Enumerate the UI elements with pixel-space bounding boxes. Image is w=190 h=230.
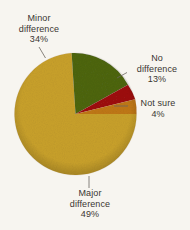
pie-label-no-difference-value: 13% <box>128 74 186 85</box>
pie-label-no-difference-line2: difference <box>128 64 186 75</box>
pie-rim-shading <box>15 53 137 175</box>
pie-label-minor: Minor difference 34% <box>6 13 72 45</box>
pie-label-not-sure-value: 4% <box>130 109 186 120</box>
pie-label-not-sure-line1: Not sure <box>130 98 186 109</box>
pie-label-minor-line1: Minor <box>6 13 72 24</box>
pie-label-no-difference-line1: No <box>128 53 186 64</box>
pie-label-no-difference: No difference 13% <box>128 53 186 85</box>
pie-label-major-line2: difference <box>44 199 136 210</box>
pie-label-major: Major difference 49% <box>44 188 136 220</box>
pie-chart: Minor difference 34% No difference 13% N… <box>0 0 190 230</box>
pie-label-not-sure: Not sure 4% <box>130 98 186 119</box>
leader-line-minor <box>39 47 46 58</box>
pie-label-major-value: 49% <box>44 209 136 220</box>
pie-label-minor-value: 34% <box>6 34 72 45</box>
pie-label-minor-line2: difference <box>6 24 72 35</box>
pie-label-major-line1: Major <box>44 188 136 199</box>
